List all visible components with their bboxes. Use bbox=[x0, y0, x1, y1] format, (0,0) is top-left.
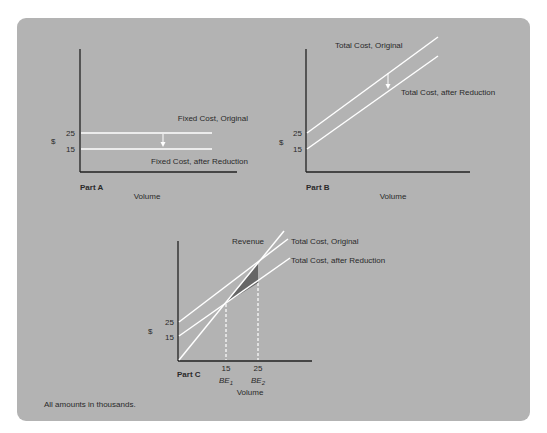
x-axis-label: Volume bbox=[134, 192, 161, 201]
cost-reduction-diagram: 25 15 $ Fixed Cost, Original Fixed Cost,… bbox=[0, 0, 547, 433]
part-a-label: Part A bbox=[80, 183, 103, 192]
total-cost-reduced-line bbox=[307, 56, 438, 149]
total-cost-reduced-label: Total Cost, after Reduction bbox=[291, 256, 385, 265]
tick-15: 15 bbox=[222, 364, 231, 373]
part-c-label: Part C bbox=[177, 370, 201, 379]
fixed-cost-original-label: Fixed Cost, Original bbox=[178, 114, 248, 123]
part-c-chart: 25 15 $ Revenue Total Cost, Original Tot… bbox=[148, 231, 385, 397]
tick-15: 15 bbox=[293, 145, 302, 154]
y-axis-label: $ bbox=[51, 137, 56, 146]
total-cost-original-line bbox=[307, 37, 438, 133]
x-axis-label: Volume bbox=[237, 388, 264, 397]
total-cost-original-label: Total Cost, Original bbox=[335, 41, 403, 50]
x-axis-label: Volume bbox=[380, 192, 407, 201]
footnote: All amounts in thousands. bbox=[44, 400, 136, 409]
revenue-label: Revenue bbox=[232, 237, 265, 246]
part-b-chart: 25 15 $ Total Cost, Original Total Cost,… bbox=[279, 37, 495, 201]
total-cost-original-line bbox=[179, 239, 288, 322]
y-axis-label: $ bbox=[148, 327, 153, 336]
be2-label: BE2 bbox=[251, 376, 266, 386]
total-cost-original-label: Total Cost, Original bbox=[291, 237, 359, 246]
part-a-chart: 25 15 $ Fixed Cost, Original Fixed Cost,… bbox=[51, 49, 248, 201]
tick-15: 15 bbox=[66, 145, 75, 154]
tick-25: 25 bbox=[293, 129, 302, 138]
tick-25: 25 bbox=[66, 129, 75, 138]
part-b-label: Part B bbox=[306, 183, 330, 192]
total-cost-reduced-label: Total Cost, after Reduction bbox=[401, 88, 495, 97]
revenue-line bbox=[179, 231, 284, 360]
y-axis-label: $ bbox=[279, 138, 284, 147]
tick-25: 25 bbox=[165, 318, 174, 327]
tick-25: 25 bbox=[254, 364, 263, 373]
total-cost-reduced-line bbox=[179, 258, 290, 336]
fixed-cost-reduced-label: Fixed Cost, after Reduction bbox=[151, 157, 248, 166]
be1-label: BE1 bbox=[219, 376, 233, 386]
tick-15: 15 bbox=[165, 333, 174, 342]
